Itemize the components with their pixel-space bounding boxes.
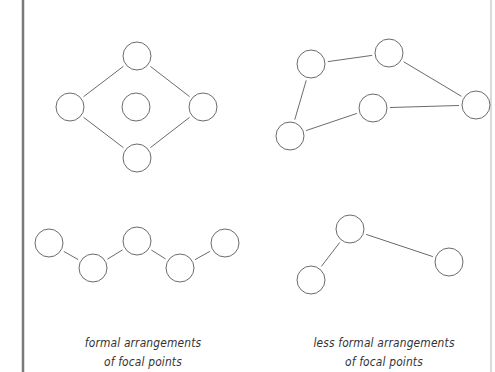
caption-less-formal: less formal arrangements of focal points bbox=[298, 333, 470, 371]
less-formal-top-edge bbox=[390, 105, 459, 107]
caption-formal-line2: of focal points bbox=[65, 352, 221, 371]
less-formal-bottom-focal-point bbox=[336, 215, 364, 243]
formal-top-focal-point bbox=[123, 42, 151, 70]
formal-top-focal-point bbox=[56, 93, 84, 121]
formal-bottom-focal-point bbox=[166, 254, 194, 282]
less-formal-top-edge bbox=[328, 55, 372, 61]
nodes-group bbox=[35, 39, 490, 294]
less-formal-bottom-focal-point bbox=[297, 266, 325, 294]
formal-top-edge bbox=[150, 66, 189, 96]
formal-bottom-focal-point bbox=[211, 229, 239, 257]
less-formal-bottom-edge bbox=[321, 243, 339, 267]
caption-less-formal-line2: of focal points bbox=[298, 352, 470, 371]
less-formal-top-edge bbox=[295, 80, 306, 119]
less-formal-top-edge bbox=[306, 113, 357, 130]
less-formal-bottom-edge bbox=[366, 234, 433, 256]
formal-top-focal-point bbox=[123, 144, 151, 172]
caption-less-formal-line1: less formal arrangements bbox=[298, 333, 470, 352]
less-formal-top-focal-point bbox=[297, 50, 325, 78]
less-formal-top-focal-point bbox=[462, 91, 490, 119]
formal-bottom-edge bbox=[64, 251, 78, 259]
less-formal-top-focal-point bbox=[276, 122, 304, 150]
caption-formal-line1: formal arrangements bbox=[65, 333, 221, 352]
formal-bottom-edge bbox=[195, 251, 210, 259]
caption-formal: formal arrangements of focal points bbox=[65, 333, 221, 371]
less-formal-top-focal-point bbox=[359, 94, 387, 122]
formal-bottom-edge bbox=[151, 250, 165, 259]
formal-top-edge bbox=[84, 66, 124, 96]
formal-bottom-focal-point bbox=[123, 227, 151, 255]
focal-points-diagram bbox=[0, 0, 495, 372]
less-formal-bottom-focal-point bbox=[435, 248, 463, 276]
less-formal-top-focal-point bbox=[375, 39, 403, 67]
formal-bottom-edge bbox=[107, 250, 122, 259]
formal-top-focal-point bbox=[122, 93, 150, 121]
formal-top-edge bbox=[84, 117, 124, 147]
less-formal-top-edge bbox=[404, 62, 462, 97]
formal-top-edge bbox=[150, 117, 189, 147]
formal-bottom-focal-point bbox=[79, 254, 107, 282]
formal-top-focal-point bbox=[189, 93, 217, 121]
formal-bottom-focal-point bbox=[35, 229, 63, 257]
